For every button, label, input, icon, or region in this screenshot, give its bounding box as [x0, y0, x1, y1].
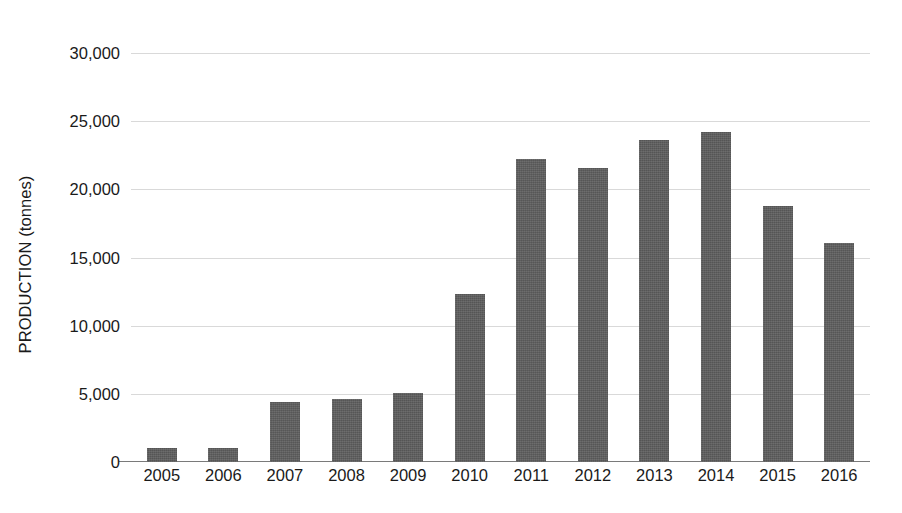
x-axis-tick-label-2008: 2008: [328, 466, 365, 485]
x-axis-tick-label-2009: 2009: [390, 466, 427, 485]
bar-2012: [578, 168, 608, 462]
bar-2010: [455, 294, 485, 462]
bars-layer: [131, 53, 870, 462]
x-axis-tick-label-2015: 2015: [759, 466, 796, 485]
bar-2015: [763, 206, 793, 462]
bar-2014: [701, 132, 731, 462]
x-axis-tick-label-2016: 2016: [821, 466, 858, 485]
y-axis-tick-label: 25,000: [70, 112, 120, 131]
bar-2007: [270, 402, 300, 462]
x-axis-tick-label-2011: 2011: [514, 466, 549, 485]
production-bar-chart: PRODUCTION (tonnes) 05,00010,00015,00020…: [0, 0, 902, 513]
y-axis-tick-label: 10,000: [70, 316, 120, 335]
bar-2006: [208, 448, 238, 462]
bar-2013: [639, 140, 669, 462]
bar-2008: [332, 399, 362, 462]
y-axis-title-label: PRODUCTION (tonnes): [16, 176, 35, 354]
x-axis-tick-labels: 2005200620072008200920102011201220132014…: [131, 466, 870, 500]
x-axis-tick-label-2010: 2010: [451, 466, 488, 485]
bar-2005: [147, 448, 177, 462]
y-axis-tick-label: 0: [111, 453, 120, 472]
y-axis-tick-label: 5,000: [79, 384, 120, 403]
bar-2016: [824, 243, 854, 462]
x-axis-tick-label-2013: 2013: [636, 466, 673, 485]
y-axis-tick-label: 15,000: [70, 248, 120, 267]
x-axis-tick-label-2007: 2007: [267, 466, 304, 485]
bar-2011: [516, 159, 546, 462]
y-axis-title: PRODUCTION (tonnes): [0, 0, 60, 513]
x-axis-tick-label-2006: 2006: [205, 466, 242, 485]
y-axis-tick-label: 20,000: [70, 180, 120, 199]
x-axis-tick-label-2014: 2014: [698, 466, 735, 485]
plot-area: 05,00010,00015,00020,00025,00030,000: [131, 53, 870, 462]
x-axis-tick-label-2005: 2005: [143, 466, 180, 485]
y-axis-tick-label: 30,000: [70, 44, 120, 63]
x-axis-tick-label-2012: 2012: [575, 466, 612, 485]
bar-2009: [393, 393, 423, 462]
